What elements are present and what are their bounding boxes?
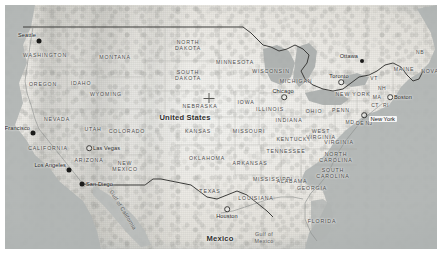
gulf-of-california-shape: [93, 185, 151, 247]
great-lakes-shapes: [263, 43, 369, 105]
city-marker-san-diego[interactable]: [80, 182, 85, 187]
pacific-ocean-shape: [5, 5, 101, 249]
map-screenshot: WASHINGTONOREGONIDAHOMONTANAWYOMINGNEVAD…: [0, 0, 442, 262]
city-marker-chicago[interactable]: [281, 94, 287, 100]
center-crosshair-marker[interactable]: [204, 93, 215, 103]
city-marker-seattle[interactable]: [37, 39, 42, 44]
city-marker-toronto[interactable]: [338, 79, 344, 85]
city-marker-las-vegas[interactable]: [86, 145, 92, 151]
city-marker-ottawa[interactable]: [360, 59, 364, 63]
city-marker-san-francisco[interactable]: [31, 131, 36, 136]
city-marker-los-angeles[interactable]: [67, 168, 72, 173]
city-marker-new-york[interactable]: [361, 112, 367, 118]
map-vector-overlay: [5, 5, 437, 249]
map-canvas[interactable]: WASHINGTONOREGONIDAHOMONTANAWYOMINGNEVAD…: [5, 5, 437, 249]
city-marker-houston[interactable]: [224, 206, 230, 212]
map-viewport[interactable]: WASHINGTONOREGONIDAHOMONTANAWYOMINGNEVAD…: [5, 5, 437, 249]
city-marker-boston[interactable]: [387, 94, 393, 100]
gulf-coastline: [221, 197, 303, 213]
